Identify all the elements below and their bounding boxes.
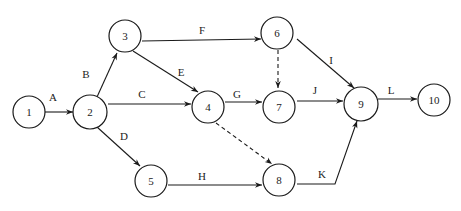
diagram-canvas: A B C D E F G xyxy=(0,0,461,211)
activity-b-label: B xyxy=(82,68,89,80)
activity-e-arrow: E xyxy=(133,51,198,92)
event-node-8: 8 xyxy=(263,164,295,196)
activity-c-label: C xyxy=(138,88,145,100)
event-node-9-label: 9 xyxy=(358,98,364,110)
event-node-4-label: 4 xyxy=(205,101,211,113)
activity-i-label: I xyxy=(329,54,333,66)
event-node-5-label: 5 xyxy=(148,175,154,187)
activity-h-arrow: H xyxy=(168,170,262,185)
event-node-10: 10 xyxy=(418,84,450,116)
activity-d-arrow: D xyxy=(97,127,140,166)
activity-j-label: J xyxy=(313,84,318,96)
activity-l-label: L xyxy=(388,84,395,96)
activity-i-arrow: I xyxy=(297,39,354,88)
event-node-7: 7 xyxy=(263,91,295,123)
event-node-10-label: 10 xyxy=(429,94,441,106)
event-node-4: 4 xyxy=(192,91,224,123)
event-node-8-label: 8 xyxy=(276,174,282,186)
activity-d-label: D xyxy=(120,130,128,142)
event-node-1: 1 xyxy=(13,96,45,128)
activity-a-label: A xyxy=(49,91,57,103)
activity-k-label: K xyxy=(318,168,326,180)
event-node-6: 6 xyxy=(261,17,293,49)
activity-g-arrow: G xyxy=(225,88,262,102)
activity-l-arrow: L xyxy=(378,84,417,99)
activity-f-label: F xyxy=(199,24,205,36)
event-node-3-label: 3 xyxy=(122,30,128,42)
event-node-2: 2 xyxy=(73,95,107,129)
activity-c-arrow: C xyxy=(108,88,191,104)
activity-e-label: E xyxy=(178,66,185,78)
activity-k-arrow: K xyxy=(297,121,357,184)
event-node-7-label: 7 xyxy=(276,101,282,113)
event-node-5: 5 xyxy=(135,165,167,197)
activity-b-arrow: B xyxy=(82,53,117,97)
event-node-2-label: 2 xyxy=(87,106,93,118)
activity-a-arrow: A xyxy=(45,91,73,112)
activity-g-label: G xyxy=(233,88,241,100)
event-node-9: 9 xyxy=(344,87,378,121)
activity-f-arrow: F xyxy=(142,24,261,41)
event-node-3: 3 xyxy=(109,20,141,52)
activity-j-arrow: J xyxy=(297,84,343,101)
activity-h-label: H xyxy=(198,170,206,182)
network-diagram: A B C D E F G xyxy=(0,0,461,211)
event-node-6-label: 6 xyxy=(274,27,280,39)
event-node-1-label: 1 xyxy=(26,106,32,118)
dummy-activity-4-8-arrow xyxy=(216,123,272,164)
